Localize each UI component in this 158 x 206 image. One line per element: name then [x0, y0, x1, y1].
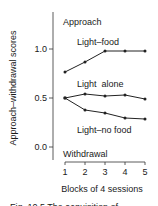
series-light-food-label: Light–food — [77, 37, 119, 47]
x-tick-label: 5 — [142, 167, 147, 177]
y-axis-label: Approach–withdrawal scores — [8, 30, 18, 146]
approach-annotation: Approach — [63, 17, 102, 27]
series-light-no-food-label: Light–no food — [77, 125, 132, 135]
chart: 1.0 0.5 0.0 1 2 3 4 5 Approach–withdrawa… — [0, 0, 158, 206]
y-tick-label: 1.0 — [34, 44, 47, 54]
series-light-alone-label: Light alone — [77, 79, 124, 89]
x-tick-label: 4 — [122, 167, 127, 177]
x-tick-label: 3 — [102, 167, 107, 177]
withdrawal-annotation: Withdrawal — [63, 149, 108, 159]
series-light-no-food-line — [65, 98, 145, 119]
series-light-food-markers — [64, 50, 147, 74]
x-tick-label: 1 — [62, 167, 67, 177]
y-tick-label: 0.0 — [34, 142, 47, 152]
x-ticks — [65, 162, 145, 165]
figure-caption: Fig. 10.5 The acquisition of — [10, 202, 118, 206]
x-axis-label: Blocks of 4 sessions — [61, 184, 143, 194]
y-tick-label: 0.5 — [34, 93, 47, 103]
x-tick-label: 2 — [82, 167, 87, 177]
series-light-food-line — [65, 51, 145, 72]
